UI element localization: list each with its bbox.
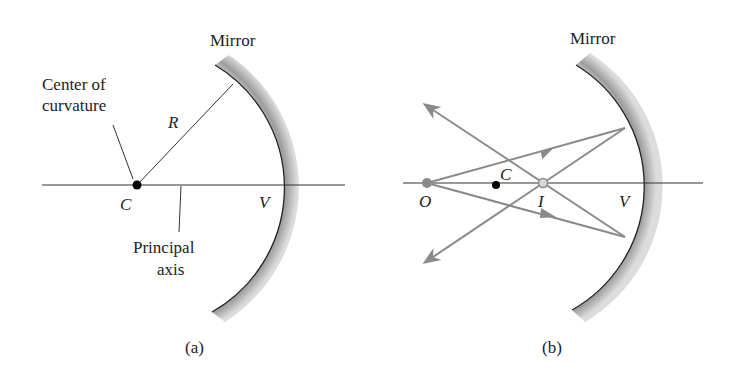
panel-b: Mirror O C I V (b) (403, 29, 703, 357)
center-point-a (133, 181, 142, 190)
center-label-line1: Center of (42, 75, 106, 94)
center-leader-line (113, 125, 133, 179)
incident-ray-upper (427, 128, 625, 183)
vertex-label-a: V (259, 193, 272, 212)
mirror-label-a: Mirror (210, 31, 256, 50)
axis-label-line1: Principal (133, 238, 195, 257)
object-point (422, 178, 432, 188)
panel-a: Mirror Center of curvature R C V Princip… (42, 31, 345, 357)
mirror-a (212, 55, 299, 322)
radius-line (137, 84, 233, 185)
caption-b: (b) (542, 338, 562, 357)
mirror-diagram: Mirror Center of curvature R C V Princip… (0, 0, 738, 387)
mirror-label-b: Mirror (570, 29, 616, 48)
center-point-b (492, 181, 500, 189)
object-label: O (419, 192, 431, 211)
image-point (539, 179, 548, 188)
axis-label-line2: axis (157, 260, 184, 279)
center-label-line2: curvature (42, 96, 106, 115)
center-point-label-a: C (120, 195, 132, 214)
caption-a: (a) (185, 338, 204, 357)
reflected-ray-lower (430, 108, 625, 237)
reflected-ray-upper (430, 128, 625, 259)
center-point-label-b: C (500, 165, 512, 184)
vertex-label-b: V (619, 192, 632, 211)
incident-ray-lower (427, 183, 625, 237)
axis-leader-line (179, 186, 181, 232)
image-label: I (537, 192, 545, 211)
mirror-b (572, 53, 663, 322)
radius-label: R (167, 113, 179, 132)
